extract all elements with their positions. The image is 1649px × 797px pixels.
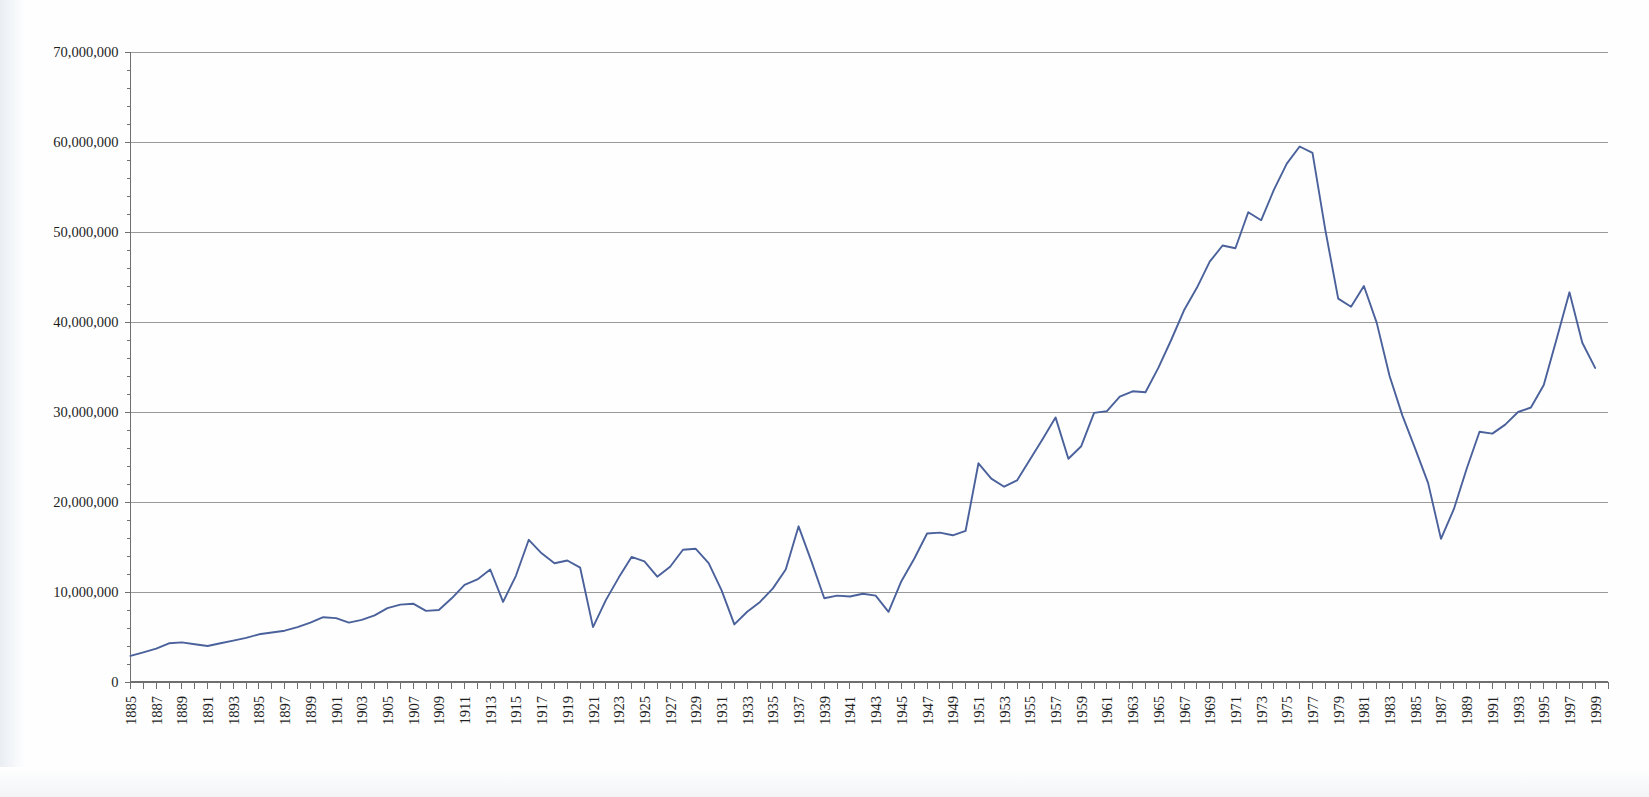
x-axis-tick-label: 1943 <box>868 696 884 725</box>
x-axis-tick-label: 1935 <box>765 696 781 725</box>
x-axis-tick-label: 1923 <box>611 696 627 725</box>
data-line <box>131 147 1596 656</box>
x-axis-tick-label: 1965 <box>1151 696 1167 725</box>
x-axis-tick-label: 1969 <box>1202 696 1218 725</box>
x-axis-tick-label: 1885 <box>123 696 139 725</box>
x-axis-tick-label: 1945 <box>894 696 910 725</box>
x-axis-tick-label: 1995 <box>1536 696 1552 725</box>
x-axis-tick-label: 1993 <box>1511 696 1527 725</box>
y-axis-tick-label: 0 <box>111 674 118 690</box>
x-axis-tick-label: 1949 <box>945 696 961 725</box>
y-axis-tick-label: 20,000,000 <box>53 494 118 510</box>
x-axis-tick-label: 1975 <box>1279 696 1295 725</box>
x-axis-tick-label: 1951 <box>971 696 987 725</box>
x-axis-tick-label: 1921 <box>586 696 602 725</box>
gridlines <box>131 52 1609 592</box>
x-axis-tick-label: 1893 <box>226 696 242 725</box>
y-axis-tick-labels: 70,000,00060,000,00050,000,00040,000,000… <box>53 44 118 690</box>
x-axis-tick-label: 1907 <box>406 696 422 725</box>
x-axis-tick-label: 1989 <box>1459 696 1475 725</box>
y-axis-tick-label: 70,000,000 <box>53 44 118 60</box>
y-axis-tick-label: 60,000,000 <box>53 134 118 150</box>
chart-page: 70,000,00060,000,00050,000,00040,000,000… <box>0 0 1649 797</box>
x-axis-tick-label: 1959 <box>1074 696 1090 725</box>
x-axis-tick-label: 1961 <box>1099 696 1115 725</box>
x-axis-tick-label: 1889 <box>174 696 190 725</box>
x-axis-tick-label: 1939 <box>817 696 833 725</box>
x-axis-tick-label: 1897 <box>277 696 293 725</box>
x-axis-tick-label: 1981 <box>1356 696 1372 725</box>
x-axis-tick-label: 1895 <box>251 696 267 725</box>
x-axis-tick-label: 1963 <box>1125 696 1141 725</box>
x-axis-tick-label: 1901 <box>329 696 345 725</box>
x-axis-tick-label: 1987 <box>1433 696 1449 725</box>
x-axis-tick-label: 1925 <box>637 696 653 725</box>
data-series-line <box>131 147 1596 656</box>
x-axis-tick-label: 1891 <box>200 696 216 725</box>
x-axis-tick-label: 1911 <box>457 696 473 724</box>
x-axis-tick-label: 1937 <box>791 696 807 725</box>
x-axis-tick-label: 1997 <box>1562 696 1578 725</box>
y-axis-tick-label: 10,000,000 <box>53 584 118 600</box>
x-axis-tick-label: 1931 <box>714 696 730 725</box>
x-axis-tick-label: 1955 <box>1022 696 1038 725</box>
x-axis-tick-label: 1957 <box>1048 696 1064 725</box>
y-axis <box>125 52 131 682</box>
y-axis-tick-label: 40,000,000 <box>53 314 118 330</box>
x-axis-tick-label: 1917 <box>534 696 550 725</box>
x-axis-tick-label: 1983 <box>1382 696 1398 725</box>
x-axis-tick-label: 1899 <box>303 696 319 725</box>
x-axis-tick-label: 1933 <box>740 696 756 725</box>
x-axis-tick-label: 1941 <box>842 696 858 725</box>
x-axis-tick-label: 1947 <box>920 696 936 725</box>
y-axis-tick-label: 50,000,000 <box>53 224 118 240</box>
x-axis-tick-label: 1985 <box>1408 696 1424 725</box>
x-axis-tick-label: 1973 <box>1254 696 1270 725</box>
x-axis-tick-label: 1887 <box>149 696 165 725</box>
line-chart: 70,000,00060,000,00050,000,00040,000,000… <box>0 0 1649 797</box>
x-axis-tick-label: 1991 <box>1485 696 1501 725</box>
x-axis-tick-label: 1905 <box>380 696 396 725</box>
x-axis-tick-label: 1927 <box>663 696 679 725</box>
x-axis-tick-label: 1953 <box>997 696 1013 725</box>
x-axis-tick-label: 1971 <box>1228 696 1244 725</box>
x-axis-ticks <box>131 682 1609 689</box>
x-axis-tick-labels: 1885188718891891189318951897189919011903… <box>123 696 1604 725</box>
x-axis-tick-label: 1915 <box>508 696 524 725</box>
x-axis-tick-label: 1909 <box>431 696 447 725</box>
x-axis-tick-label: 1929 <box>688 696 704 725</box>
x-axis-tick-label: 1903 <box>354 696 370 725</box>
x-axis-tick-label: 1999 <box>1588 696 1604 725</box>
y-axis-tick-label: 30,000,000 <box>53 404 118 420</box>
x-axis-tick-label: 1977 <box>1305 696 1321 725</box>
x-axis-tick-label: 1919 <box>560 696 576 725</box>
x-axis-tick-label: 1967 <box>1177 696 1193 725</box>
x-axis-tick-label: 1979 <box>1331 696 1347 725</box>
x-axis-tick-label: 1913 <box>483 696 499 725</box>
